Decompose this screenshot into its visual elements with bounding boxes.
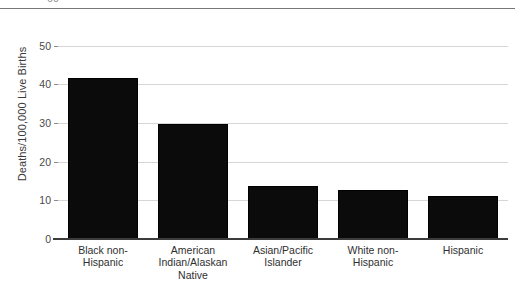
x-axis-category-label-line: Black non- bbox=[58, 244, 148, 256]
y-axis-tick-label: 20 bbox=[39, 156, 51, 168]
y-axis-title: Deaths/100,000 Live Births bbox=[16, 14, 28, 214]
x-axis-category-label-line: Native bbox=[148, 269, 238, 281]
y-axis-tick-label: 0 bbox=[45, 233, 51, 245]
x-axis-category-label: Asian/PacificIslander bbox=[238, 244, 328, 269]
bar[interactable] bbox=[158, 124, 228, 240]
y-axis-tick-label: 40 bbox=[39, 78, 51, 90]
bar-slot bbox=[328, 8, 418, 240]
plot-area: 01020304050 bbox=[58, 8, 508, 240]
bar-slot bbox=[58, 8, 148, 240]
x-axis-line bbox=[53, 238, 508, 240]
y-axis-tick-label: 50 bbox=[39, 40, 51, 52]
bar[interactable] bbox=[68, 78, 138, 240]
bar-slot bbox=[418, 8, 508, 240]
bar-slot bbox=[238, 8, 328, 240]
x-axis-category-label-line: Islander bbox=[238, 256, 328, 268]
x-axis-category-label-line: American bbox=[148, 244, 238, 256]
x-axis-category-label-line: Hispanic bbox=[328, 256, 418, 268]
x-axis-category-label-line: Hispanic bbox=[58, 256, 148, 268]
bar-slot bbox=[148, 8, 238, 240]
x-axis-category-label: White non-Hispanic bbox=[328, 244, 418, 269]
x-axis-category-label-line: Indian/Alaskan bbox=[148, 256, 238, 268]
bar[interactable] bbox=[428, 196, 498, 240]
y-axis-tick-label-top-clipped: 60 bbox=[33, 0, 59, 4]
x-axis-category-label: Hispanic bbox=[418, 244, 508, 256]
x-axis-category-label-line: White non- bbox=[328, 244, 418, 256]
x-axis-category-label: AmericanIndian/AlaskanNative bbox=[148, 244, 238, 281]
x-axis-category-label-line: Hispanic bbox=[418, 244, 508, 256]
bar[interactable] bbox=[248, 186, 318, 240]
x-axis-category-label-line: Asian/Pacific bbox=[238, 244, 328, 256]
x-axis-category-labels: Black non-HispanicAmericanIndian/Alaskan… bbox=[58, 244, 508, 283]
bar-series bbox=[58, 8, 508, 240]
bar[interactable] bbox=[338, 190, 408, 240]
y-axis-tick-label: 30 bbox=[39, 117, 51, 129]
y-axis-tick-label: 10 bbox=[39, 194, 51, 206]
x-axis-category-label: Black non-Hispanic bbox=[58, 244, 148, 269]
